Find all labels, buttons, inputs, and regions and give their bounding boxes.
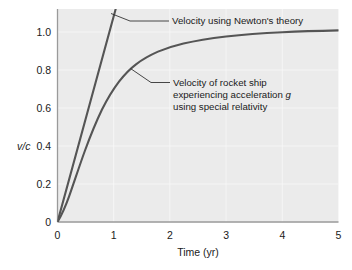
relativity-annotation-line-2-text: experiencing acceleration [173, 89, 286, 100]
y-tick-label-5: 0.2 [36, 178, 51, 190]
relativity-annotation-line-2: experiencing acceleration g [173, 89, 292, 100]
y-tick-label-1: 1.0 [36, 26, 51, 38]
relativity-annotation-line-1: Velocity of rocket ship [173, 77, 267, 88]
x-tick-label-1: 0 [55, 229, 61, 241]
velocity-vs-time-chart: 1.0 0.8 0.6 0.4 0.2 0 0 1 2 3 4 5 v/c Ti… [0, 0, 352, 270]
relativity-annotation-line-3: using special relativity [173, 101, 267, 112]
y-axis-title: v/c [17, 140, 31, 152]
chart-figure: 1.0 0.8 0.6 0.4 0.2 0 0 1 2 3 4 5 v/c Ti… [0, 0, 352, 270]
newton-annotation-label: Velocity using Newton's theory [172, 15, 303, 26]
x-axis-title: Time (yr) [177, 246, 219, 258]
y-tick-label-2: 0.8 [36, 64, 51, 76]
y-tick-label-4: 0.4 [36, 140, 51, 152]
y-tick-label-6: 0 [45, 216, 51, 228]
x-tick-label-2: 1 [111, 229, 117, 241]
y-tick-label-3: 0.6 [36, 102, 51, 114]
x-tick-label-6: 5 [336, 229, 342, 241]
acceleration-symbol: g [286, 89, 292, 100]
x-tick-label-5: 4 [279, 229, 285, 241]
x-tick-label-3: 2 [167, 229, 173, 241]
x-tick-label-4: 3 [223, 229, 229, 241]
